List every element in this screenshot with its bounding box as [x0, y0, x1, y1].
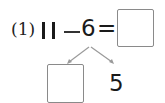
decomposition-right-value: 5 [109, 70, 124, 96]
decomposition-left-box[interactable] [47, 64, 84, 103]
